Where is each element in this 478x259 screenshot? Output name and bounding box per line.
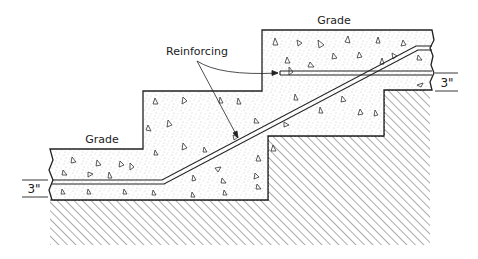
grade-label-lower: Grade	[85, 133, 119, 146]
dimension-label-right: 3"	[440, 76, 453, 90]
grade-label-upper: Grade	[317, 14, 351, 27]
dimension-label-left: 3"	[27, 182, 40, 196]
diagram-svg: Grade Grade Reinforcing 3" 3"	[0, 0, 478, 259]
slab-section-diagram: Grade Grade Reinforcing 3" 3"	[0, 0, 478, 259]
reinforcing-label: Reinforcing	[166, 45, 228, 58]
